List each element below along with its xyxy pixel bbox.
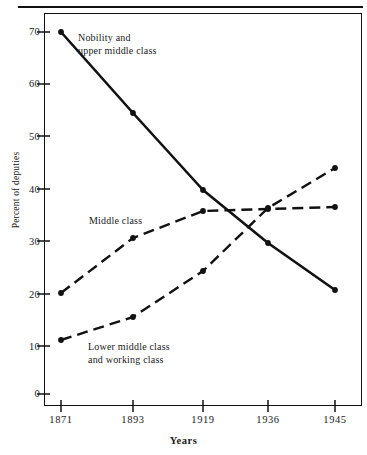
annotation-lower-middle-working-class: Lower middle class and working class — [88, 340, 170, 366]
annotation-middle-class-line1: Middle class — [89, 214, 142, 227]
series-nobility-upper-middle-class — [58, 29, 338, 293]
x-tick-1893: 1893 — [108, 414, 158, 425]
annotation-nobility-line2: upper middle class — [78, 44, 157, 57]
x-tick-1936: 1936 — [243, 414, 293, 425]
x-tick-1945: 1945 — [310, 414, 360, 425]
chart-figure: 70 60 50 40 30 20 10 0 Percent of deputi… — [0, 0, 367, 455]
chart-canvas — [0, 0, 367, 455]
annotation-nobility-line1: Nobility and — [78, 31, 157, 44]
x-axis-ticks — [61, 400, 335, 412]
series-lower-middle-working-class — [58, 165, 338, 343]
x-tick-1871: 1871 — [36, 414, 86, 425]
annotation-lower-line2: and working class — [88, 353, 170, 366]
annotation-nobility: Nobility and upper middle class — [78, 31, 157, 57]
y-axis-ticks — [37, 32, 50, 394]
annotation-lower-line1: Lower middle class — [88, 340, 170, 353]
annotation-middle-class: Middle class — [89, 214, 142, 227]
x-tick-1919: 1919 — [178, 414, 228, 425]
x-axis-label: Years — [0, 435, 367, 446]
